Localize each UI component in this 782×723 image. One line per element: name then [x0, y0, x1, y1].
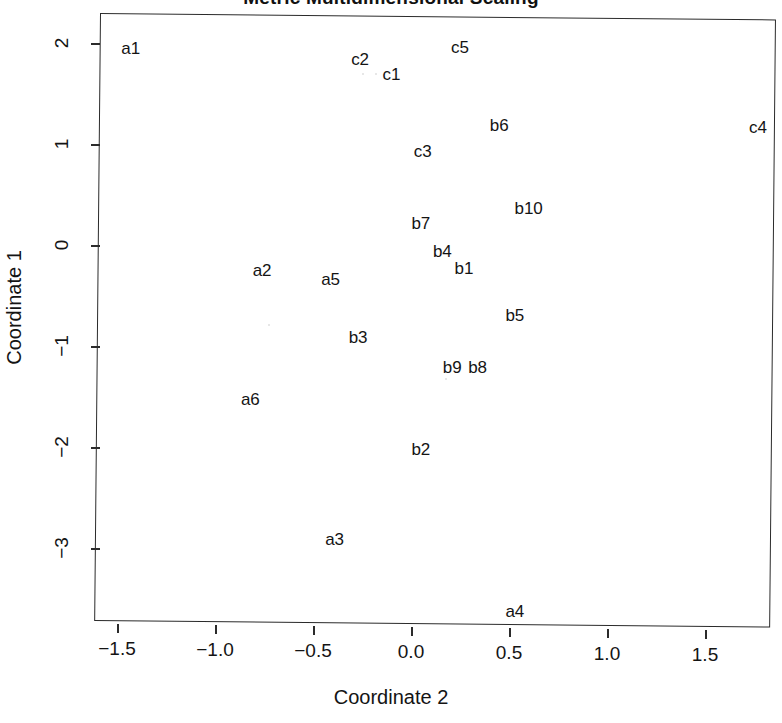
- x-axis-tick: [607, 629, 609, 638]
- x-axis-tick-label: 0.0: [398, 641, 424, 663]
- x-axis-tick-label: 1.0: [594, 643, 620, 665]
- scan-speckle: [362, 73, 364, 75]
- data-point-label: b9: [443, 358, 462, 375]
- data-point-label: b6: [490, 116, 509, 133]
- x-axis-tick: [313, 626, 315, 635]
- data-point-label: a4: [506, 602, 525, 619]
- data-point-label: c3: [414, 143, 432, 160]
- x-axis-tick: [411, 627, 413, 636]
- scan-speckle: [375, 73, 377, 75]
- y-axis-tick: [91, 346, 100, 348]
- y-axis-tick: [91, 144, 100, 146]
- y-axis-tick-label: 2: [51, 26, 73, 60]
- data-point-label: c4: [749, 119, 767, 136]
- page-title: Metric Multidimensional Scaling: [0, 0, 782, 9]
- data-point-label: b2: [411, 441, 430, 458]
- data-point-label: c5: [451, 39, 469, 56]
- data-point-label: b8: [468, 358, 487, 375]
- scatter-plot-panel: a1c2c1c5b6c4c3b10b7b4b1a2a5b5b3b9b8a6b2a…: [100, 13, 776, 621]
- data-point-label: a5: [321, 270, 340, 287]
- y-axis-tick-label: 0: [51, 228, 73, 262]
- plot-frame-border: [94, 13, 776, 627]
- data-point-label: b1: [455, 259, 474, 276]
- data-point-label: b5: [506, 306, 525, 323]
- scan-speckle: [445, 378, 447, 380]
- x-axis-label: Coordinate 2: [0, 686, 782, 709]
- data-point-label: b3: [349, 329, 368, 346]
- x-axis-tick: [509, 628, 511, 637]
- data-point-label: b7: [411, 214, 430, 231]
- x-axis-tick-label: 0.5: [496, 642, 522, 664]
- data-point-label: a3: [325, 531, 344, 548]
- y-axis-tick-label: −1: [51, 329, 73, 363]
- data-point-label: a1: [121, 40, 140, 57]
- y-axis-tick: [91, 447, 100, 449]
- data-point-label: b4: [433, 243, 452, 260]
- x-axis-tick-label: −0.5: [294, 640, 332, 662]
- y-axis-tick: [91, 43, 100, 45]
- y-axis-tick: [91, 548, 100, 550]
- scan-speckle: [268, 324, 270, 326]
- data-point-label: b10: [515, 199, 543, 216]
- data-point-label: c1: [383, 66, 401, 83]
- y-axis-tick-label: 1: [51, 127, 73, 161]
- x-axis-tick-label: −1.0: [196, 639, 234, 661]
- data-point-label: a6: [241, 390, 260, 407]
- y-axis-tick-label: −3: [51, 531, 73, 565]
- x-axis-tick: [117, 624, 119, 633]
- x-axis-tick: [215, 625, 217, 634]
- x-axis-tick-label: 1.5: [692, 644, 718, 666]
- y-axis-tick: [91, 245, 100, 247]
- x-axis-tick-label: −1.5: [98, 638, 136, 660]
- y-axis-label: Coordinate 1: [3, 208, 26, 408]
- data-point-label: c2: [351, 50, 369, 67]
- y-axis-tick-label: −2: [51, 430, 73, 464]
- data-point-label: a2: [253, 261, 272, 278]
- x-axis-tick: [705, 630, 707, 639]
